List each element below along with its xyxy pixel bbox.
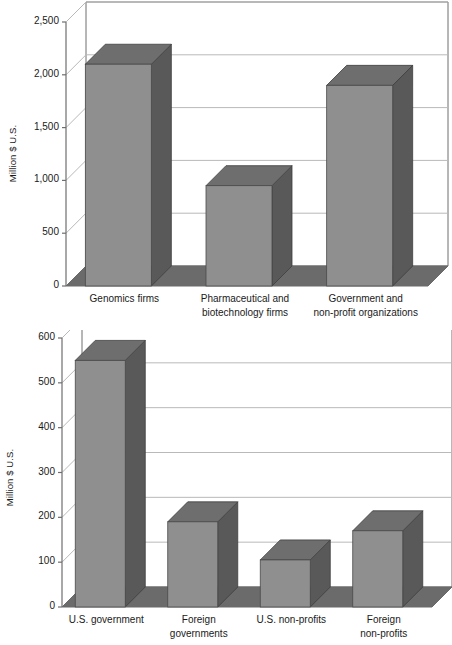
bar-front-face <box>353 531 403 607</box>
chart-top-y-axis-title: Million $ U.S. <box>7 125 18 182</box>
bar-front-face <box>327 85 393 286</box>
chart-bottom-3d-bar: Million $ U.S. 0100200300400500600U.S. g… <box>0 330 452 645</box>
y-axis-tick-label: 2,500 <box>34 15 59 26</box>
bar-side-face <box>393 65 413 286</box>
axis-depth-connector <box>66 160 86 180</box>
y-axis-tick-label: 200 <box>38 510 55 521</box>
bar-front-face <box>206 186 272 286</box>
axis-depth-connector <box>66 213 86 233</box>
axis-depth-connector <box>66 2 86 22</box>
y-axis-tick-label: 0 <box>49 600 55 611</box>
chart-top-plot-area <box>0 0 452 330</box>
y-axis-tick-label: 500 <box>42 226 59 237</box>
axis-depth-connector <box>62 330 82 338</box>
axis-depth-connector <box>66 108 86 128</box>
bar-1 <box>75 340 145 607</box>
y-axis-tick-label: 2,000 <box>34 68 59 79</box>
y-axis-tick-label: 400 <box>38 421 55 432</box>
bar-2 <box>206 166 292 286</box>
bar-3 <box>327 65 413 286</box>
y-axis-tick-label: 0 <box>53 279 59 290</box>
chart-bottom-y-axis-title: Million $ U.S. <box>4 449 15 506</box>
bar-4 <box>353 511 423 607</box>
bar-front-face <box>260 560 310 607</box>
category-label: Foreign non-profits <box>321 613 448 640</box>
chart-bottom-svg <box>0 330 452 645</box>
chart-top-3d-bar: Million $ U.S. 05001,0001,5002,0002,500G… <box>0 0 452 330</box>
axis-depth-connector <box>66 55 86 75</box>
bar-side-face <box>272 166 292 286</box>
y-axis-tick-label: 1,500 <box>34 121 59 132</box>
y-axis-tick-label: 600 <box>38 331 55 342</box>
bar-front-face <box>75 360 125 607</box>
chart-top-svg <box>0 0 452 330</box>
bar-side-face <box>151 44 171 286</box>
y-axis-tick-label: 300 <box>38 466 55 477</box>
y-axis-tick-label: 1,000 <box>34 173 59 184</box>
y-axis-tick-label: 500 <box>38 376 55 387</box>
bar-1 <box>85 44 171 286</box>
bar-side-face <box>125 340 145 607</box>
bar-front-face <box>85 64 151 286</box>
bar-front-face <box>168 522 218 607</box>
bar-3 <box>260 540 330 607</box>
bar-2 <box>168 502 238 607</box>
y-axis-tick-label: 100 <box>38 555 55 566</box>
category-label: Government and non-profit organizations <box>288 292 443 319</box>
chart-bottom-plot-area <box>0 330 452 645</box>
